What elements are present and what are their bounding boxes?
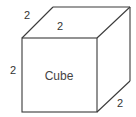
dimension-label-top-depth: 2 [57,20,63,32]
cube-top-right-edge [97,7,130,38]
cube-bottom-right-edge [97,81,130,112]
dimension-label-bottom-right: 2 [117,97,123,109]
cube-diagram: 2 2 2 2 Cube [0,0,136,117]
dimension-label-left-height: 2 [10,64,16,76]
cube-label: Cube [45,69,74,83]
dimension-label-top-left: 2 [24,9,30,21]
